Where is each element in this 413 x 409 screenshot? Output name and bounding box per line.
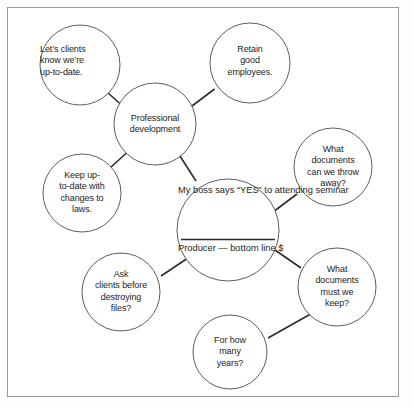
label-my-boss-says-yes-bottom: Producer — bottom line $ — [178, 243, 278, 255]
label-line: seminar — [316, 185, 349, 195]
circle-what-documents-must-keep[interactable] — [298, 248, 376, 326]
mindmap-canvas: Let’s clients know we’re up-to-date. Ret… — [0, 0, 413, 409]
circle-keep-up-to-date[interactable] — [43, 154, 121, 232]
mindmap-svg — [0, 0, 413, 409]
label-line: to attending — [264, 185, 313, 195]
connector-center-throwaway — [273, 194, 297, 212]
connector-center-askclients — [161, 258, 188, 276]
connector-mustkeep-howmanyyears — [268, 311, 316, 338]
label-line: says “YES” — [215, 185, 262, 195]
circle-for-how-many-years[interactable] — [193, 315, 267, 389]
circle-ask-clients-before-destroying[interactable] — [82, 253, 160, 331]
label-my-boss-says-yes-top: My boss says “YES” to attending seminar — [178, 185, 278, 197]
connector-profdev-center — [178, 153, 196, 181]
circle-lets-clients-know[interactable] — [40, 25, 120, 105]
label-line: bottom line — [230, 243, 275, 253]
connector-profdev-retain — [192, 89, 215, 106]
label-line: $ — [278, 243, 283, 253]
label-line: My boss — [178, 185, 213, 195]
circle-professional-development[interactable] — [114, 83, 196, 165]
circle-retain-good-employees[interactable] — [210, 23, 290, 103]
connector-profdev-keepuptodate — [110, 153, 127, 169]
label-line: Producer — — [178, 243, 228, 253]
